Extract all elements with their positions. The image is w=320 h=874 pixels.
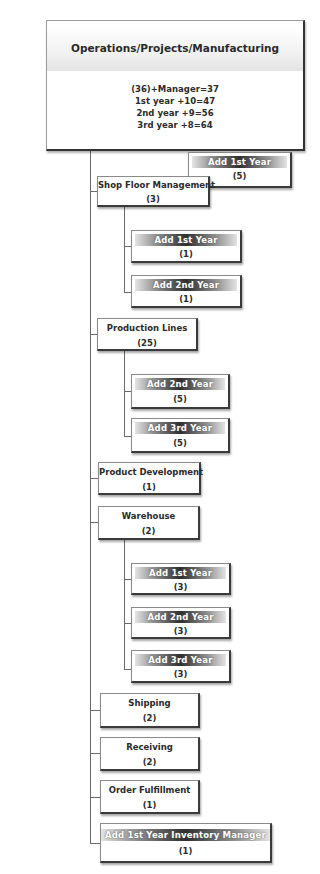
node-title: Shipping <box>101 697 198 709</box>
node-title: Product Development <box>99 466 199 478</box>
connector-receiving <box>90 753 100 754</box>
node-title: Add 1st Year <box>135 234 237 246</box>
node-production-add-2nd-year[interactable]: Add 2nd Year (5) <box>131 374 230 409</box>
root-stat-base: (36)+Manager=37 <box>47 83 303 95</box>
root-title-band: Operations/Projects/Manufacturing <box>47 27 303 71</box>
connector-warehouse-add-3rd <box>124 669 131 670</box>
connector-production-lines <box>90 334 97 335</box>
node-count: (1) <box>101 845 270 857</box>
sub-trunk-warehouse <box>124 539 125 670</box>
node-count: (25) <box>98 337 196 349</box>
connector-shop-floor-add-1st <box>124 246 131 247</box>
connector-shipping <box>90 710 100 711</box>
connector-order-fulfillment <box>90 797 100 798</box>
root-stat-year2: 2nd year +9=56 <box>47 107 303 119</box>
node-count: (2) <box>101 756 198 768</box>
root-stats: (36)+Manager=37 1st year +10=47 2nd year… <box>47 83 303 131</box>
node-count: (1) <box>99 481 199 493</box>
sub-trunk-production-lines <box>124 350 125 437</box>
node-title: Shop Floor Management <box>98 179 208 191</box>
node-count: (3) <box>132 581 229 593</box>
connector-warehouse-add-1st <box>124 579 131 580</box>
node-count: (1) <box>132 248 240 260</box>
root-title: Operations/Projects/Manufacturing <box>47 27 303 55</box>
node-title: Add 1st Year <box>135 567 226 579</box>
connector-production-add-3rd <box>124 436 131 437</box>
node-count: (3) <box>132 668 229 680</box>
node-production-add-3rd-year[interactable]: Add 3rd Year (5) <box>131 418 230 453</box>
node-title: Production Lines <box>98 322 196 334</box>
node-title: Add 3rd Year <box>135 422 225 434</box>
node-warehouse-add-1st-year[interactable]: Add 1st Year (3) <box>131 563 231 595</box>
node-title: Order Fulfillment <box>101 784 198 796</box>
node-title: Add 3rd Year <box>135 654 226 666</box>
node-count: (3) <box>98 193 208 205</box>
main-trunk-line <box>90 151 91 843</box>
node-title: Add 1st Year Inventory Manager <box>101 829 270 841</box>
connector-warehouse <box>90 522 98 523</box>
connector-product-development <box>90 478 98 479</box>
connector-production-add-2nd <box>124 391 131 392</box>
node-count: (5) <box>132 437 228 449</box>
node-shipping[interactable]: Shipping (2) <box>100 693 200 728</box>
node-receiving[interactable]: Receiving (2) <box>100 737 200 771</box>
node-count: (5) <box>132 393 228 405</box>
connector-shop-floor <box>90 191 97 192</box>
node-add-1st-year-inventory-manager[interactable]: Add 1st Year Inventory Manager (1) <box>100 823 272 863</box>
root-stat-year3: 3rd year +8=64 <box>47 119 303 131</box>
node-title: Add 2nd Year <box>135 378 225 390</box>
node-count: (1) <box>101 799 198 811</box>
node-shop-floor-add-2nd-year[interactable]: Add 2nd Year (1) <box>131 275 242 308</box>
node-warehouse-add-2nd-year[interactable]: Add 2nd Year (3) <box>131 607 231 639</box>
sub-trunk-shop-floor <box>124 206 125 293</box>
node-title: Add 2nd Year <box>135 279 237 291</box>
node-warehouse-add-3rd-year[interactable]: Add 3rd Year (3) <box>131 650 231 683</box>
node-title: Warehouse <box>99 510 198 522</box>
node-count: (3) <box>132 625 229 637</box>
node-warehouse[interactable]: Warehouse (2) <box>98 506 200 540</box>
node-count: (2) <box>99 525 198 537</box>
connector-warehouse-add-2nd <box>124 623 131 624</box>
node-count: (2) <box>101 712 198 724</box>
connector-shop-floor-add-2nd <box>124 292 131 293</box>
node-order-fulfillment[interactable]: Order Fulfillment (1) <box>100 780 200 814</box>
node-title: Receiving <box>101 741 198 753</box>
node-shop-floor-management[interactable]: Shop Floor Management (3) <box>97 176 210 207</box>
node-title: Add 1st Year <box>192 156 287 168</box>
connector-inventory-manager <box>90 843 100 844</box>
root-stat-year1: 1st year +10=47 <box>47 95 303 107</box>
node-title: Add 2nd Year <box>135 611 226 623</box>
node-shop-floor-add-1st-year[interactable]: Add 1st Year (1) <box>131 230 242 263</box>
node-count: (1) <box>132 293 240 305</box>
root-node-operations[interactable]: Operations/Projects/Manufacturing (36)+M… <box>46 20 305 151</box>
node-production-lines[interactable]: Production Lines (25) <box>97 318 198 351</box>
node-product-development[interactable]: Product Development (1) <box>98 462 201 495</box>
